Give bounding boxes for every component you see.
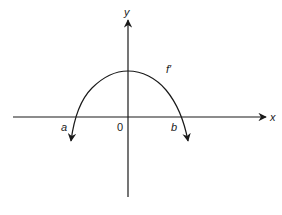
x-axis-label: x bbox=[269, 111, 276, 123]
graph-figure: y x 0 a b f′ bbox=[0, 0, 282, 215]
root-a-label: a bbox=[61, 121, 67, 133]
graph-canvas: y x 0 a b f′ bbox=[0, 0, 282, 215]
origin-label: 0 bbox=[117, 121, 123, 133]
root-b-label: b bbox=[171, 121, 177, 133]
curve-label: f′ bbox=[166, 63, 172, 75]
y-axis-label: y bbox=[123, 6, 131, 18]
